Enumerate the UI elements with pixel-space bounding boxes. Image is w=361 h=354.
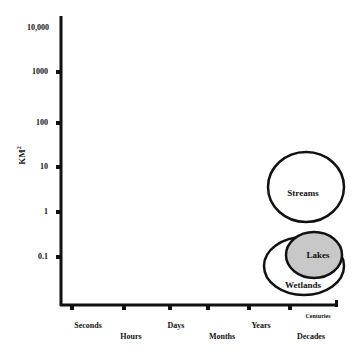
streams-region: [268, 152, 344, 222]
y-tick-label-0-1: 0.1: [8, 253, 48, 261]
x-tick-label-days: Days: [168, 322, 185, 330]
chart-canvas: [0, 0, 361, 354]
x-tick-label-decades: Decades: [297, 333, 325, 341]
x-tick-label-hours: Hours: [120, 333, 141, 341]
x-tick-label-centuries: Centuries: [306, 313, 331, 319]
y-tick-label-100: 100: [8, 119, 48, 127]
y-tick-label-1: 1: [8, 208, 48, 216]
lakes-label: Lakes: [306, 250, 329, 260]
x-tick-label-years: Years: [251, 322, 270, 330]
y-axis-title: KM2: [16, 146, 27, 165]
y-tick-label-10000: 10,000: [9, 24, 49, 32]
wetlands-label: Wetlands: [285, 280, 321, 290]
y-axis-title-text: KM: [17, 149, 27, 165]
y-tick-label-10: 10: [8, 163, 48, 171]
x-tick-label-seconds: Seconds: [74, 322, 102, 330]
streams-label: Streams: [287, 188, 318, 198]
x-tick-label-months: Months: [209, 333, 235, 341]
y-tick-label-1000: 1000: [8, 68, 48, 76]
y-axis-title-sup: 2: [16, 146, 22, 149]
